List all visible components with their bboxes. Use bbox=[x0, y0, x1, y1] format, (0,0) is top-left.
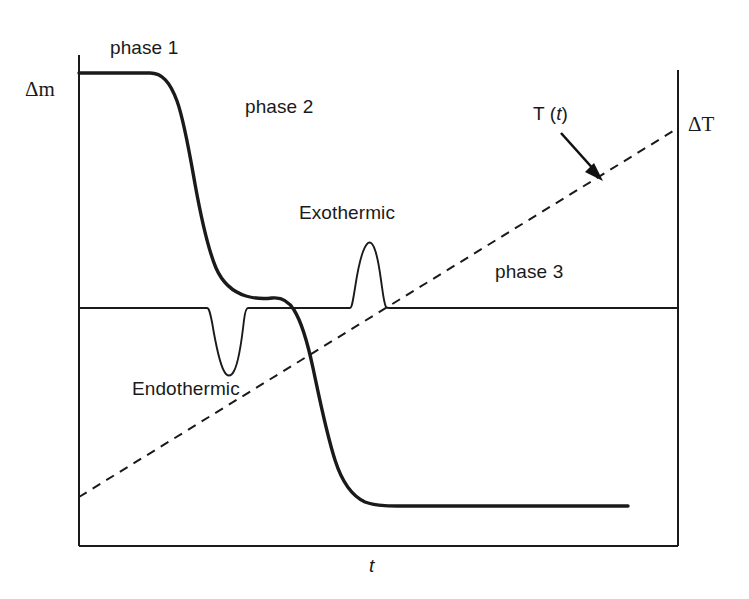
delta-t-symbol: ΔT bbox=[688, 112, 715, 136]
phase-3-label: phase 3 bbox=[495, 262, 563, 281]
delta-m-symbol: Δm bbox=[25, 77, 55, 101]
dta-heat-flow-curve-group bbox=[79, 242, 678, 375]
x-axis-label: t bbox=[369, 556, 374, 575]
tga-mass-loss-curve-group bbox=[79, 73, 628, 506]
y-axis-right-label: ΔT bbox=[688, 114, 715, 135]
temperature-program-arrow-head bbox=[585, 163, 603, 181]
tga-mass-loss-curve bbox=[79, 73, 628, 506]
exothermic-label: Exothermic bbox=[299, 203, 395, 222]
temperature-program-group bbox=[79, 128, 678, 497]
temperature-program-suffix: ) bbox=[562, 103, 568, 124]
temperature-program-arrow-shaft bbox=[561, 133, 596, 172]
phase-3-label-text: phase 3 bbox=[495, 261, 563, 282]
phase-2-label: phase 2 bbox=[245, 97, 313, 116]
phase-1-label-text: phase 1 bbox=[110, 37, 178, 58]
thermal-analysis-figure: Δm ΔT t phase 1 phase 2 phase 3 Exotherm… bbox=[0, 0, 749, 599]
phase-2-label-text: phase 2 bbox=[245, 96, 313, 117]
x-axis-label-text: t bbox=[369, 555, 374, 576]
temperature-program-arrow-group bbox=[561, 133, 603, 181]
exothermic-label-text: Exothermic bbox=[299, 202, 395, 223]
phase-1-label: phase 1 bbox=[110, 38, 178, 57]
endothermic-label: Endothermic bbox=[132, 379, 240, 398]
temperature-program-line bbox=[79, 128, 678, 497]
temperature-program-label: T (t) bbox=[533, 104, 568, 123]
dta-heat-flow-curve bbox=[79, 242, 678, 375]
figure-canvas bbox=[0, 0, 749, 599]
axes-group bbox=[79, 55, 678, 546]
temperature-program-prefix: T ( bbox=[533, 103, 556, 124]
y-axis-left-label: Δm bbox=[25, 79, 55, 100]
endothermic-label-text: Endothermic bbox=[132, 378, 240, 399]
